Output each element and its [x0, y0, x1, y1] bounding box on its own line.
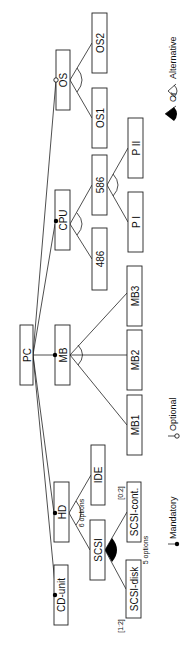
- node-label: P I: [131, 216, 142, 228]
- legend-alternative: Alternative: [168, 36, 178, 98]
- legend-label: Alternative: [168, 36, 178, 79]
- edge-scsi-cont: [105, 512, 127, 550]
- node-label: SCSI-disk: [129, 566, 140, 611]
- mandatory-dot-cpu: [54, 219, 58, 223]
- node-586[interactable]: 586: [92, 155, 107, 215]
- legend-label: Optional: [168, 397, 178, 431]
- node-label: CPU: [58, 209, 69, 230]
- legend-or: Or: [165, 92, 178, 121]
- scsi-disk-cardinality: [1:2]: [117, 619, 125, 633]
- node-label: P II: [131, 141, 142, 156]
- node-label: SCSI-cont.: [129, 488, 140, 536]
- alternative-arc-cpu: [77, 213, 82, 235]
- nodes: PC CD-unit HD MB CPU OS SCSI IDE SCSI-di…: [20, 13, 143, 625]
- node-scsi[interactable]: SCSI: [90, 520, 105, 580]
- node-486[interactable]: 486: [92, 228, 107, 290]
- node-label: OS2: [95, 33, 106, 53]
- node-label: PC: [22, 348, 33, 362]
- node-p2[interactable]: P II: [128, 118, 143, 178]
- hd-options-label: 6 options: [78, 498, 86, 527]
- node-p1[interactable]: P I: [128, 192, 143, 252]
- node-label: MB3: [130, 285, 141, 306]
- node-label: MB: [58, 347, 69, 362]
- node-label: 586: [95, 176, 106, 193]
- node-label: MB2: [130, 349, 141, 370]
- node-label: OS: [58, 72, 69, 87]
- mandatory-dot-hd: [53, 511, 57, 515]
- legend-label: Mandatory: [168, 496, 178, 539]
- feature-tree-svg: PC CD-unit HD MB CPU OS SCSI IDE SCSI-di…: [0, 0, 194, 649]
- mandatory-dot-cd: [53, 593, 57, 597]
- node-scsi-disk[interactable]: SCSI-disk: [126, 560, 141, 618]
- node-mb[interactable]: MB: [55, 325, 70, 385]
- node-label: HD: [57, 505, 68, 519]
- node-mb3[interactable]: MB3: [127, 266, 142, 326]
- node-label: OS1: [95, 108, 106, 128]
- node-os1[interactable]: OS1: [92, 88, 107, 148]
- alternative-arc-586: [113, 174, 118, 196]
- edge-pc-os: [33, 80, 56, 355]
- alternative-arc-os: [77, 68, 82, 92]
- scsi-options-label: 5 options: [142, 535, 150, 564]
- or-arc-scsi: [105, 538, 117, 562]
- node-mb1[interactable]: MB1: [127, 395, 142, 455]
- optional-dot-os: [54, 78, 58, 82]
- feature-diagram: PC CD-unit HD MB CPU OS SCSI IDE SCSI-di…: [0, 0, 194, 649]
- edge-586-pi: [107, 185, 128, 222]
- edge-586-pii: [107, 148, 128, 185]
- legend: Mandatory Optional Alternative Or: [165, 36, 179, 546]
- node-label: SCSI: [93, 538, 104, 561]
- node-label: 486: [95, 250, 106, 267]
- optional-icon: [175, 434, 179, 438]
- mandatory-dot-mb: [53, 353, 57, 357]
- node-scsi-cont[interactable]: SCSI-cont.: [127, 482, 141, 542]
- legend-label: Or: [168, 92, 178, 102]
- legend-optional: Optional: [168, 397, 179, 438]
- edge-mb-mb1: [70, 355, 127, 425]
- scsi-cont-cardinality: [0:2]: [117, 486, 125, 500]
- or-icon: [165, 107, 177, 121]
- node-ide[interactable]: IDE: [91, 445, 105, 505]
- edge-pc-cd: [33, 355, 56, 595]
- node-label: IDE: [93, 466, 104, 483]
- node-os2[interactable]: OS2: [92, 13, 107, 73]
- node-mb2[interactable]: MB2: [127, 330, 142, 390]
- edge-pc-cpu: [33, 224, 55, 355]
- node-pc[interactable]: PC: [20, 325, 33, 385]
- mandatory-icon: [175, 542, 179, 546]
- legend-mandatory: Mandatory: [168, 496, 179, 546]
- node-label: MB1: [130, 414, 141, 435]
- edge-pc-hd: [33, 355, 54, 513]
